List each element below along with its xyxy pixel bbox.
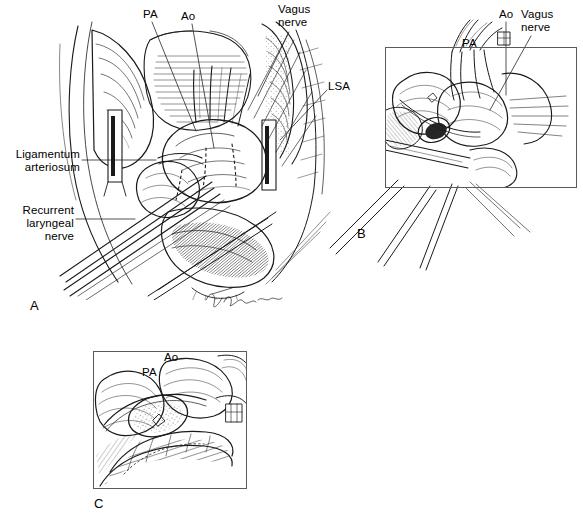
label-panel-c-pa: PA — [142, 366, 157, 379]
artist-signature — [206, 288, 282, 307]
label-panel-a-recurrent-laryngeal-nerve: Recurrent laryngeal nerve — [0, 204, 74, 243]
label-panel-a-lsa: LSA — [328, 80, 350, 93]
panel-letter-c: C — [94, 496, 103, 511]
panel-letter-a: A — [30, 298, 39, 313]
label-panel-a-ao: Ao — [181, 10, 195, 23]
label-panel-a-vagus-nerve: Vagus nerve — [278, 3, 310, 29]
label-panel-b-vagus-nerve: Vagus nerve — [521, 8, 553, 34]
label-panel-a-pa: PA — [143, 8, 158, 21]
label-panel-a-ligamentum-arteriosum: Ligamentum arteriosum — [4, 148, 80, 174]
panel-b-frame — [385, 47, 577, 188]
label-panel-c-ao: Ao — [164, 351, 178, 364]
label-panel-b-ao: Ao — [499, 8, 513, 21]
label-panel-b-pa: PA — [462, 37, 477, 50]
figure-root: PA Ao Vagus nerve LSA Ligamentum arterio… — [0, 0, 583, 521]
panel-a-artwork — [60, 22, 330, 312]
panel-c-frame — [93, 351, 247, 489]
panel-letter-b: B — [357, 226, 366, 241]
